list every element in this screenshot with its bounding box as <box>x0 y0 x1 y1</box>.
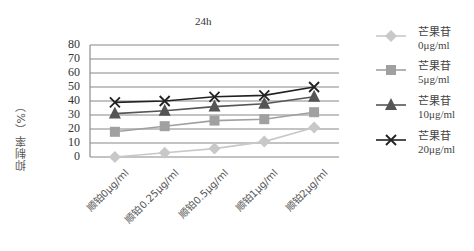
diamond-marker <box>258 136 270 148</box>
legend-item: 芒果苷10μg/ml <box>372 95 472 131</box>
legend-label-line1: 芒果苷 <box>418 26 451 39</box>
square-marker <box>160 121 170 131</box>
legend-label-line1: 芒果苷 <box>418 95 455 108</box>
series-lines <box>109 82 320 163</box>
y-tick-label: 20 <box>60 121 80 136</box>
legend-label-line2: 20μg/ml <box>418 143 455 156</box>
y-tick-label: 80 <box>60 37 80 52</box>
square-marker <box>309 107 319 117</box>
legend-label-line2: 10μg/ml <box>418 108 455 121</box>
y-tick-label: 40 <box>60 93 80 108</box>
y-tick-label: 10 <box>60 135 80 150</box>
square-marker <box>110 127 120 137</box>
square-marker <box>259 114 269 124</box>
diamond-marker <box>308 122 320 134</box>
diamond-marker <box>109 151 121 163</box>
legend-label-line2: 5μg/ml <box>418 73 451 86</box>
y-tick-label: 60 <box>60 65 80 80</box>
square-marker <box>210 116 220 126</box>
legend-label-line2: 0μg/ml <box>418 39 451 52</box>
legend-label-line1: 芒果苷 <box>418 60 451 73</box>
diamond-marker <box>209 143 221 155</box>
legend-item: 芒果苷0μg/ml <box>372 26 472 62</box>
legend-label-line1: 芒果苷 <box>418 130 455 143</box>
series-triangle <box>109 90 320 119</box>
legend-item: 芒果苷5μg/ml <box>372 60 472 96</box>
legend-item: 芒果苷20μg/ml <box>372 130 472 166</box>
y-tick-label: 30 <box>60 107 80 122</box>
y-tick-label: 70 <box>60 51 80 66</box>
y-tick-label: 50 <box>60 79 80 94</box>
y-tick-label: 0 <box>60 149 80 164</box>
